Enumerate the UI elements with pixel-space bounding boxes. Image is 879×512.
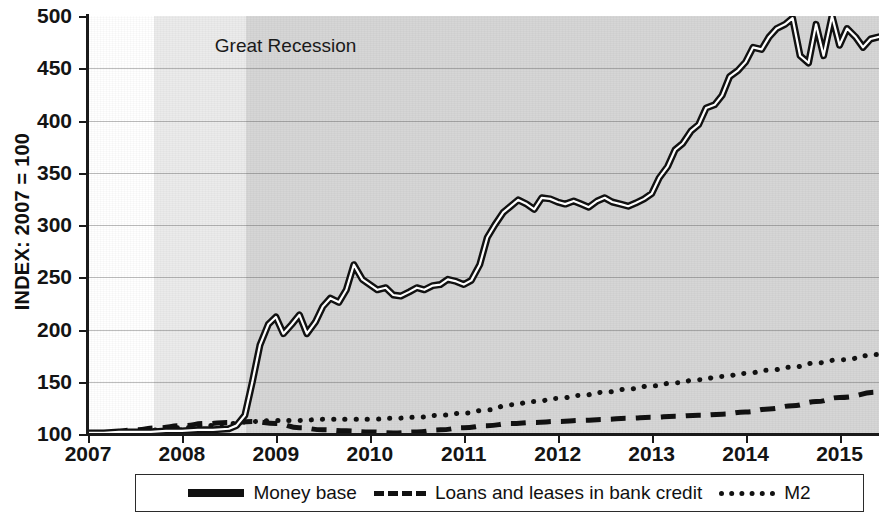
x-tick-mark-2010 (370, 434, 372, 443)
x-tick-label-2009: 2009 (236, 443, 316, 464)
x-tick-label-2015: 2015 (800, 443, 879, 464)
legend-item-loans-and-leases-in-bank-credit: Loans and leases in bank credit (374, 482, 702, 504)
money-base-outline (88, 16, 879, 433)
x-tick-mark-2011 (464, 434, 466, 443)
y-tick-label-500: 500 (18, 5, 72, 26)
y-axis-line (86, 14, 89, 436)
series-layer (88, 16, 879, 434)
x-tick-mark-2013 (652, 434, 654, 443)
legend-swatch-solid (188, 489, 244, 497)
y-tick-label-250: 250 (18, 266, 72, 287)
legend-swatch-dashed (374, 491, 426, 496)
x-tick-label-2014: 2014 (706, 443, 786, 464)
y-tick-label-100: 100 (18, 423, 72, 444)
legend-item-m2: M2 (719, 482, 810, 504)
plot-area: Great Recession (88, 16, 879, 434)
y-tick-label-150: 150 (18, 371, 72, 392)
y-tick-label-300: 300 (18, 214, 72, 235)
recession-annotation: Great Recession (215, 35, 357, 57)
y-tick-label-400: 400 (18, 110, 72, 131)
legend-item-money-base: Money base (188, 482, 357, 504)
x-tick-mark-2012 (558, 434, 560, 443)
x-axis-line (86, 433, 879, 436)
x-tick-mark-2009 (276, 434, 278, 443)
x-tick-mark-2008 (182, 434, 184, 443)
y-tick-label-200: 200 (18, 319, 72, 340)
y-tick-label-450: 450 (18, 57, 72, 78)
x-tick-label-2010: 2010 (330, 443, 410, 464)
chart-figure: INDEX: 2007 = 100 5004504003503002502001… (0, 0, 879, 512)
x-tick-label-2013: 2013 (612, 443, 692, 464)
series-m2 (88, 355, 879, 434)
money-base-core (88, 16, 879, 433)
y-tick-label-350: 350 (18, 162, 72, 183)
x-tick-label-2012: 2012 (518, 443, 598, 464)
legend-swatch-dotted (719, 491, 775, 496)
x-tick-label-2008: 2008 (142, 443, 222, 464)
x-tick-mark-2007 (88, 434, 90, 443)
legend-label: Money base (253, 482, 357, 504)
x-tick-mark-2015 (840, 434, 842, 443)
legend-label: M2 (784, 482, 810, 504)
x-tick-label-2011: 2011 (424, 443, 504, 464)
chart-legend: Money baseLoans and leases in bank credi… (135, 474, 864, 512)
series-money-base (88, 16, 879, 433)
x-tick-mark-2014 (746, 434, 748, 443)
x-tick-label-2007: 2007 (48, 443, 128, 464)
legend-label: Loans and leases in bank credit (435, 482, 702, 504)
m2-line (88, 355, 879, 434)
